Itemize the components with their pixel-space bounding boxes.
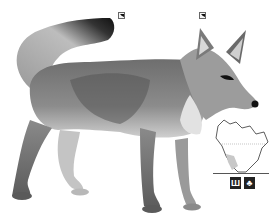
desert-icon: ♣ (244, 177, 255, 189)
range-map (212, 116, 269, 174)
grassland-icon: Ш (230, 177, 241, 189)
fox-drawing (0, 0, 269, 219)
callout-marker-ear[interactable] (199, 12, 206, 19)
callout-marker-tail[interactable] (118, 12, 125, 19)
map-baseline (213, 173, 269, 174)
fox-illustration (0, 0, 269, 219)
